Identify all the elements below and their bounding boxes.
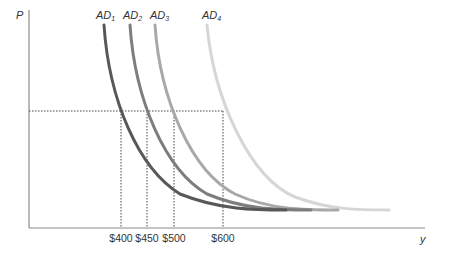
ad-shift-chart: P y AD1 AD2 AD3 AD4 $400 $450 $500 $600 <box>0 0 453 254</box>
x-tick-400: $400 <box>109 232 133 244</box>
ad4-label: AD4 <box>201 9 221 22</box>
ad1-label: AD1 <box>95 9 115 22</box>
ad1-curve <box>104 25 286 210</box>
ad3-curve <box>155 25 338 210</box>
x-tick-450: $450 <box>135 232 159 244</box>
ad4-curve <box>207 25 389 210</box>
x-axis-label: y <box>419 233 427 245</box>
ad2-label: AD2 <box>122 9 142 22</box>
y-axis-label: P <box>16 9 24 21</box>
reference-lines <box>29 111 223 228</box>
x-tick-600: $600 <box>211 232 235 244</box>
x-tick-500: $500 <box>162 232 186 244</box>
ad3-label: AD3 <box>149 9 169 22</box>
